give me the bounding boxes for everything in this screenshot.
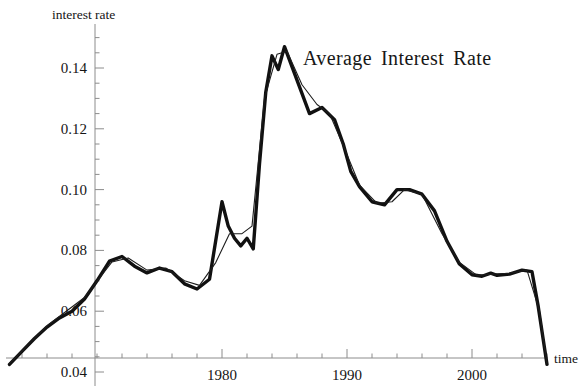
y-tick-label: 0.10 bbox=[43, 183, 87, 198]
series-line-smoothed bbox=[10, 51, 548, 363]
chart-title: AverageInterestRate bbox=[303, 48, 492, 68]
chart-title-word: Interest bbox=[381, 47, 444, 69]
chart-figure: interest rate time AverageInterestRate 0… bbox=[0, 0, 588, 386]
x-tick-label: 1980 bbox=[192, 368, 252, 383]
x-axis-title: time bbox=[554, 352, 578, 366]
x-tick-label: 1990 bbox=[317, 368, 377, 383]
chart-title-word: Average bbox=[303, 47, 372, 69]
series-group bbox=[10, 47, 548, 365]
chart-plot-area bbox=[0, 0, 588, 386]
x-tick-label: 2000 bbox=[442, 368, 502, 383]
y-tick-label: 0.06 bbox=[43, 304, 87, 319]
y-tick-label: 0.14 bbox=[43, 61, 87, 76]
y-tick-label: 0.12 bbox=[43, 122, 87, 137]
y-tick-label: 0.04 bbox=[43, 365, 87, 380]
y-tick-label: 0.08 bbox=[43, 243, 87, 258]
y-axis-title: interest rate bbox=[52, 8, 115, 22]
axes-group bbox=[6, 24, 548, 386]
chart-title-word: Rate bbox=[453, 47, 491, 69]
series-line-observed bbox=[10, 47, 548, 365]
